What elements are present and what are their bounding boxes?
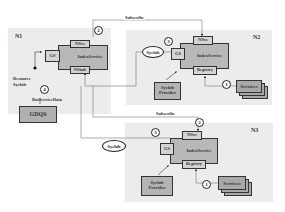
subscribe-label-top: Subscribe (124, 15, 145, 20)
n2-step-1-badge: 1 (222, 80, 231, 89)
n3-syclub-provider[interactable]: SyclubProvider (141, 176, 173, 196)
n2-syclub-provider[interactable]: SyclubProvider (154, 82, 181, 100)
bat-service-data-label: BatServiceData (32, 97, 62, 102)
gdqs-label: GDQS (29, 111, 46, 118)
n2-registry[interactable]: Registry (193, 66, 217, 75)
n3-services-label: Services (223, 181, 241, 186)
node-n2-label: N2 (253, 34, 260, 40)
n1-nsvc-label: NSvc (75, 42, 85, 47)
node-n1-label: N1 (15, 33, 22, 39)
n2-step-3-badge: 3 (164, 37, 173, 46)
syclub-message-n3: Syclub (102, 140, 126, 152)
n3-nsvc[interactable]: NSvc (182, 131, 202, 140)
subscribe-label-mid: Subscribe (155, 111, 176, 116)
n3-index-service-label: IndexService (187, 149, 212, 154)
n2-gs[interactable]: GS (171, 48, 185, 60)
n1-gs[interactable]: GS (45, 50, 60, 62)
gdqs-box[interactable]: GDQS (19, 106, 57, 123)
n3-step-1-badge: 1 (202, 180, 211, 189)
n2-registry-label: Registry (197, 68, 213, 73)
resource-syclub-label-2: Syclub (13, 82, 26, 87)
n2-gs-label: GS (175, 52, 181, 57)
n3-nsvc-label: NSvc (187, 133, 197, 138)
n2-index-service-label: IndexService (197, 54, 222, 59)
n1-nstub[interactable]: NStub (70, 66, 90, 74)
n1-nsvc[interactable]: NSvc (70, 40, 90, 48)
n3-registry[interactable]: Registry (182, 160, 206, 169)
resource-syclub-label-1: Resource (13, 76, 31, 81)
step-4-badge: 4 (40, 85, 49, 94)
n3-step-3-badge: 3 (151, 128, 160, 137)
n2-services-layer-front: Services (236, 80, 262, 93)
syclub-message-n2: Syclub (142, 46, 164, 58)
n2-nsvc[interactable]: NSvc (193, 36, 213, 45)
n3-services-stack[interactable]: Services (218, 176, 254, 198)
n3-gs-label: GS (164, 147, 170, 152)
node-n3-label: N3 (251, 127, 258, 133)
n3-provider-line2: Provider (149, 186, 166, 191)
n2-provider-line2: Provider (159, 91, 176, 96)
n3-services-layer-front: Services (218, 176, 246, 190)
step-2-badge-top: 2 (94, 26, 103, 35)
n3-gs[interactable]: GS (160, 143, 174, 155)
n3-step-2-badge: 2 (195, 118, 204, 127)
n3-registry-label: Registry (186, 162, 202, 167)
n2-nsvc-label: NSvc (198, 38, 208, 43)
n2-services-stack[interactable]: Services (236, 80, 270, 100)
n2-services-label: Services (240, 84, 258, 89)
n1-nstub-label: NStub (74, 68, 86, 73)
n1-gs-label: GS (49, 54, 55, 59)
n1-index-service-label: IndexService (78, 55, 103, 60)
